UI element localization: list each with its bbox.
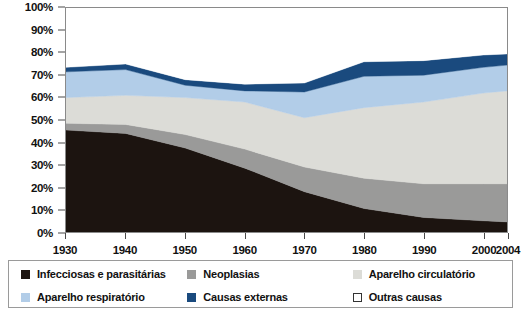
x-axis-tick-mark bbox=[65, 233, 66, 239]
legend-item-neoplasias[interactable]: Neoplasias bbox=[183, 262, 342, 286]
legend-label: Aparelho respiratório bbox=[37, 291, 145, 303]
legend-item-aparelho-respiratorio[interactable]: Aparelho respiratório bbox=[9, 285, 183, 309]
legend-swatch-infecciosas-e-parasitarias bbox=[21, 270, 30, 279]
y-axis-tick-label: 80% bbox=[31, 46, 53, 58]
legend-label: Neoplasias bbox=[203, 268, 259, 280]
x-axis-tick-label: 1970 bbox=[292, 244, 316, 256]
legend-row: Aparelho respiratório Causas externas Ou… bbox=[9, 285, 512, 309]
legend-label: Outras causas bbox=[369, 291, 442, 303]
legend-item-aparelho-circulatorio[interactable]: Aparelho circulatório bbox=[343, 262, 512, 286]
y-axis-tick-mark bbox=[58, 187, 65, 188]
x-axis-tick-label: 2004 bbox=[496, 244, 520, 256]
y-axis-tick-label: 50% bbox=[31, 114, 53, 126]
x-axis-tick-mark bbox=[245, 233, 246, 239]
y-axis-tick-mark bbox=[58, 120, 65, 121]
y-axis-tick-mark bbox=[58, 165, 65, 166]
x-axis-tick-label: 2000 bbox=[472, 244, 496, 256]
legend-label: Aparelho circulatório bbox=[369, 268, 475, 280]
legend-item-causas-externas[interactable]: Causas externas bbox=[183, 285, 342, 309]
y-axis-tick-label: 100% bbox=[25, 1, 53, 13]
x-axis-tick-mark bbox=[508, 233, 509, 239]
legend-item-infecciosas-e-parasitarias[interactable]: Infecciosas e parasitárias bbox=[9, 262, 183, 286]
y-axis-tick-label: 40% bbox=[31, 137, 53, 149]
legend-swatch-neoplasias bbox=[187, 270, 196, 279]
legend-swatch-causas-externas bbox=[187, 293, 196, 302]
y-axis-tick-mark bbox=[58, 7, 65, 8]
stacked-area-svg bbox=[66, 8, 507, 232]
legend-item-outras-causas[interactable]: Outras causas bbox=[343, 285, 512, 309]
y-axis-tick-mark bbox=[58, 29, 65, 30]
x-axis-tick-label: 1960 bbox=[232, 244, 256, 256]
y-axis: 0%10%20%30%40%50%60%70%80%90%100% bbox=[0, 0, 65, 240]
x-axis-tick-mark bbox=[484, 233, 485, 239]
y-axis-tick-mark bbox=[58, 52, 65, 53]
y-axis-tick-mark bbox=[58, 97, 65, 98]
y-axis-tick-mark bbox=[58, 74, 65, 75]
y-axis-tick-mark bbox=[58, 142, 65, 143]
x-axis-tick-label: 1980 bbox=[352, 244, 376, 256]
x-axis-tick-label: 1950 bbox=[173, 244, 197, 256]
x-axis-tick-mark bbox=[364, 233, 365, 239]
legend-swatch-outras-causas bbox=[353, 293, 362, 302]
y-axis-tick-label: 60% bbox=[31, 91, 53, 103]
y-axis-tick-mark bbox=[58, 210, 65, 211]
legend-label: Infecciosas e parasitárias bbox=[37, 268, 166, 280]
y-axis-tick-label: 30% bbox=[31, 159, 53, 171]
x-axis: 193019401950196019701980199020002004 bbox=[0, 233, 521, 263]
x-axis-tick-label: 1930 bbox=[53, 244, 77, 256]
legend-swatch-aparelho-respiratorio bbox=[21, 293, 30, 302]
legend-label: Causas externas bbox=[203, 291, 287, 303]
x-axis-tick-mark bbox=[185, 233, 186, 239]
x-axis-tick-mark bbox=[125, 233, 126, 239]
legend-swatch-aparelho-circulatorio bbox=[353, 270, 362, 279]
chart-legend: Infecciosas e parasitárias Neoplasias Ap… bbox=[8, 260, 513, 308]
plot-area bbox=[65, 7, 508, 233]
x-axis-tick-mark bbox=[304, 233, 305, 239]
y-axis-tick-label: 70% bbox=[31, 69, 53, 81]
x-axis-tick-label: 1940 bbox=[113, 244, 137, 256]
y-axis-tick-label: 90% bbox=[31, 24, 53, 36]
legend-row: Infecciosas e parasitárias Neoplasias Ap… bbox=[9, 262, 512, 286]
y-axis-tick-label: 20% bbox=[31, 182, 53, 194]
y-axis-tick-label: 10% bbox=[31, 204, 53, 216]
x-axis-tick-mark bbox=[424, 233, 425, 239]
chart-page: 0%10%20%30%40%50%60%70%80%90%100% 193019… bbox=[0, 0, 521, 323]
x-axis-tick-label: 1990 bbox=[412, 244, 436, 256]
